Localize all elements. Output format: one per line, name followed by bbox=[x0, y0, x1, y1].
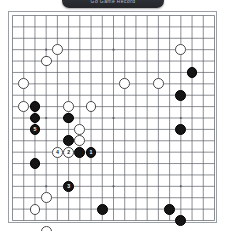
go-diagram-screen: Go Game Record 52413 bbox=[0, 0, 225, 231]
stone-move-1[interactable]: 1 bbox=[86, 147, 97, 158]
stone-black[interactable] bbox=[175, 215, 186, 226]
board-grid bbox=[9, 12, 218, 224]
stone-white[interactable] bbox=[41, 56, 52, 67]
stone-black[interactable] bbox=[164, 204, 175, 215]
stone-black[interactable] bbox=[74, 147, 85, 158]
go-board[interactable]: 52413 bbox=[8, 11, 217, 223]
stone-black[interactable] bbox=[175, 90, 186, 101]
stone-move-number: 4 bbox=[56, 150, 59, 155]
stone-move-number: 5 bbox=[33, 127, 36, 132]
stone-white[interactable] bbox=[63, 101, 74, 112]
stone-black[interactable] bbox=[30, 158, 41, 169]
stone-move-3[interactable]: 3 bbox=[63, 181, 74, 192]
stone-black[interactable] bbox=[175, 124, 186, 135]
stone-move-number: 3 bbox=[67, 184, 70, 189]
stone-white[interactable] bbox=[41, 226, 52, 231]
stone-move-2[interactable]: 2 bbox=[63, 147, 74, 158]
stone-white[interactable] bbox=[30, 204, 41, 215]
stone-white[interactable] bbox=[153, 78, 164, 89]
stone-black[interactable] bbox=[97, 204, 108, 215]
stone-move-number: 1 bbox=[90, 150, 93, 155]
title-bar-label: Go Game Record bbox=[62, 0, 164, 4]
stone-white[interactable] bbox=[74, 124, 85, 135]
stone-white[interactable] bbox=[41, 192, 52, 203]
title-bar: Go Game Record bbox=[62, 0, 164, 8]
stone-white[interactable] bbox=[52, 44, 63, 55]
stone-black[interactable] bbox=[187, 67, 198, 78]
stone-move-5[interactable]: 5 bbox=[30, 124, 41, 135]
stone-move-4[interactable]: 4 bbox=[52, 147, 63, 158]
stone-move-number: 2 bbox=[67, 150, 70, 155]
